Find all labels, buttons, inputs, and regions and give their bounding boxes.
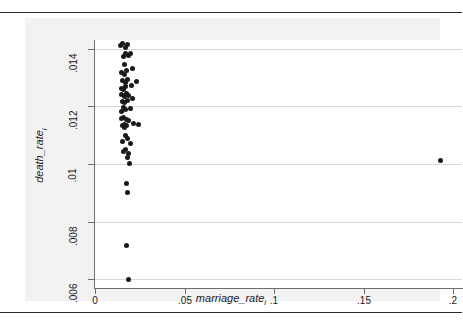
scatter-point	[130, 66, 135, 71]
graph-region: .006.008.01.012.014 0.05.1.15.2 death_ra…	[25, 18, 440, 301]
gridline-y	[95, 279, 462, 280]
scatter-point	[122, 125, 127, 130]
y-tick-label-text: .014	[68, 54, 79, 73]
x-axis-title: marriage_ratei	[0, 292, 462, 307]
scatter-point	[119, 109, 124, 114]
y-tick	[88, 279, 94, 280]
x-axis-title-subscript: i	[264, 298, 266, 307]
y-tick-label-text: .012	[68, 111, 79, 130]
y-tick	[88, 164, 94, 165]
y-axis-title: death_ratei	[33, 76, 48, 236]
scatter-point	[124, 68, 129, 73]
y-tick	[88, 222, 94, 223]
page-rule-top	[0, 12, 462, 13]
scatter-point	[128, 141, 133, 146]
scatter-point	[125, 98, 130, 103]
gridline-y	[95, 106, 462, 107]
x-axis-title-text: marriage_rate	[196, 292, 264, 304]
scatter-point	[127, 161, 132, 166]
scatter-point	[130, 96, 135, 101]
gridline-y	[95, 164, 462, 165]
scatter-point	[122, 62, 127, 67]
scatter-point	[136, 122, 141, 127]
y-tick	[88, 106, 94, 107]
y-tick-label-text: .008	[68, 227, 79, 246]
scatter-point	[125, 155, 130, 160]
y-tick-label-text: .01	[68, 169, 79, 183]
page-rule-bottom	[0, 312, 462, 313]
x-axis-line	[94, 288, 463, 289]
y-tick	[88, 49, 94, 50]
scatter-point	[128, 106, 133, 111]
scatter-point	[126, 277, 131, 282]
scatter-point	[129, 83, 134, 88]
scatter-point	[438, 158, 443, 163]
y-axis-title-subscript: i	[40, 128, 49, 130]
scatter-point	[125, 190, 130, 195]
scatter-point	[124, 243, 129, 248]
gridline-y	[95, 222, 462, 223]
scatter-point	[125, 42, 130, 47]
scatter-point	[131, 121, 136, 126]
y-axis-title-text: death_rate	[33, 130, 45, 183]
gridline-y	[95, 49, 462, 50]
